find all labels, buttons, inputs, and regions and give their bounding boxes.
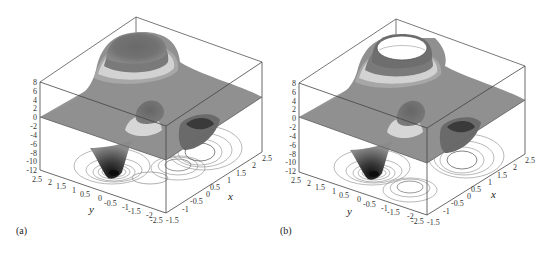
svg-text:2.5: 2.5 [291,176,301,185]
svg-text:6: 6 [33,87,37,96]
svg-text:-1.5: -1.5 [387,208,400,217]
svg-text:6: 6 [292,88,296,97]
svg-text:-2: -2 [30,122,37,131]
clipped-peak-ring [377,36,427,60]
svg-text:-0.5: -0.5 [104,199,117,208]
svg-text:2: 2 [33,104,37,113]
svg-text:1: 1 [72,186,76,195]
svg-text:-2: -2 [289,123,296,132]
svg-text:1.5: 1.5 [315,183,325,192]
z-axis-ticks: 8 6 4 2 0 -2 -4 -6 -8 -10 -12 [285,79,296,176]
svg-text:2: 2 [292,105,296,114]
x-axis-ticks: -1.5 -1 -0.5 0 0.5 1 1.5 2 2.5 x [166,154,272,225]
svg-text:2: 2 [48,178,52,187]
svg-text:1.5: 1.5 [236,169,246,178]
svg-text:1.5: 1.5 [56,182,66,191]
svg-text:-12: -12 [285,167,296,176]
svg-text:-2.5: -2.5 [150,216,163,225]
svg-text:-10: -10 [26,157,37,166]
svg-text:-10: -10 [285,158,296,167]
svg-text:-1.5: -1.5 [128,207,141,216]
svg-text:0.5: 0.5 [471,185,481,194]
z-axis-ticks: 8 6 4 2 0 -2 -4 -6 -8 -10 -12 [26,78,37,175]
svg-text:0.5: 0.5 [210,183,220,192]
svg-text:-1: -1 [182,205,189,214]
svg-text:2: 2 [252,161,256,170]
svg-text:8: 8 [292,79,296,88]
svg-text:-4: -4 [30,131,37,140]
svg-text:-0.5: -0.5 [451,199,464,208]
svg-text:1: 1 [488,178,492,187]
svg-text:-0.5: -0.5 [190,197,203,206]
svg-text:-0.5: -0.5 [363,200,376,209]
y-axis-label: y [346,205,352,217]
svg-text:-12: -12 [26,166,37,175]
svg-text:0: 0 [292,114,296,123]
svg-text:-4: -4 [289,132,296,141]
svg-text:2.5: 2.5 [525,156,535,165]
svg-text:1: 1 [227,176,231,185]
surface-a [40,32,262,179]
svg-text:0.5: 0.5 [339,191,349,200]
svg-text:-1.5: -1.5 [166,216,179,225]
svg-text:8: 8 [33,78,37,87]
surface-plot-b: 8 6 4 2 0 -2 -4 -6 -8 -10 -12 2.5 2 1.5 … [277,0,555,253]
svg-text:2.5: 2.5 [32,175,42,184]
panel-a: 8 6 4 2 0 -2 -4 -6 -8 -10 -12 2.5 2 1.5 … [0,0,278,253]
svg-text:1: 1 [332,187,336,196]
panel-b: 8 6 4 2 0 -2 -4 -6 -8 -10 -12 2.5 2 1.5 … [277,0,555,253]
svg-text:2.5: 2.5 [262,154,272,163]
y-axis-label: y [88,203,94,215]
svg-text:2: 2 [307,179,311,188]
surface-plot-a: 8 6 4 2 0 -2 -4 -6 -8 -10 -12 2.5 2 1.5 … [0,0,278,253]
svg-text:0: 0 [33,113,37,122]
svg-text:-1.5: -1.5 [427,218,440,227]
svg-text:-6: -6 [289,141,296,150]
svg-text:0: 0 [357,195,361,204]
svg-text:-2.5: -2.5 [411,217,424,226]
svg-text:2: 2 [513,163,517,172]
svg-text:0.5: 0.5 [80,190,90,199]
panel-label-a: (a) [16,225,27,237]
x-axis-label: x [490,188,496,200]
svg-text:1.5: 1.5 [497,171,507,180]
svg-text:-6: -6 [30,140,37,149]
panel-label-b: (b) [280,225,292,237]
svg-text:0: 0 [98,194,102,203]
x-axis-label: x [227,190,233,202]
svg-text:-1: -1 [443,207,450,216]
